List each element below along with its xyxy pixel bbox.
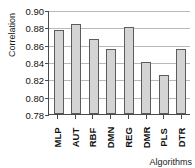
bar <box>89 39 99 114</box>
bar <box>54 30 64 115</box>
y-axis-tick <box>45 80 49 81</box>
y-axis-tick <box>45 46 49 47</box>
y-axis-title: Correlation <box>7 0 17 75</box>
x-axis-title: Algorithms <box>149 157 192 167</box>
x-axis-label-dmr: DMR <box>140 118 151 158</box>
y-axis-tick <box>45 63 49 64</box>
plot-area: 0.900.880.860.840.820.800.78 <box>48 11 190 115</box>
x-axis-label-pls: PLS <box>158 118 169 158</box>
bar <box>176 49 186 114</box>
y-axis-tick-label: 0.80 <box>26 92 45 103</box>
bar-slot <box>155 11 173 114</box>
y-axis-tick <box>45 98 49 99</box>
bar-slot <box>50 11 68 114</box>
bar-slot <box>173 11 191 114</box>
x-axis-label-dtr: DTR <box>176 118 187 158</box>
x-axis-label-dmn: DMN <box>105 118 116 158</box>
x-axis-label-rbf: RBF <box>87 118 98 158</box>
bar-slot <box>138 11 156 114</box>
y-axis-tick-label: 0.84 <box>26 58 45 69</box>
bar-slot <box>103 11 121 114</box>
y-axis-tick <box>45 28 49 29</box>
y-axis-tick <box>45 11 49 12</box>
y-axis-tick-label: 0.86 <box>26 40 45 51</box>
x-axis-label-reg: REG <box>122 118 133 158</box>
bar <box>71 24 81 114</box>
bar-slot <box>120 11 138 114</box>
bar-chart: Correlation 0.900.880.860.840.820.800.78… <box>0 0 195 168</box>
x-axis-label-aut: AUT <box>69 118 80 158</box>
x-axis-tick-labels: MLPAUTRBFDMNREGDMRPLSDTR <box>48 120 190 150</box>
y-axis-tick-label: 0.88 <box>26 23 45 34</box>
bar <box>141 62 151 114</box>
bar <box>124 27 134 114</box>
bar-series <box>50 11 190 114</box>
y-axis-tick-label: 0.90 <box>26 6 45 17</box>
y-axis-tick-label: 0.82 <box>26 75 45 86</box>
bar-slot <box>85 11 103 114</box>
x-axis-label-mlp: MLP <box>51 118 62 158</box>
bar <box>106 49 116 114</box>
y-axis-tick-label: 0.78 <box>26 110 45 121</box>
bar <box>159 75 169 114</box>
bar-slot <box>68 11 86 114</box>
